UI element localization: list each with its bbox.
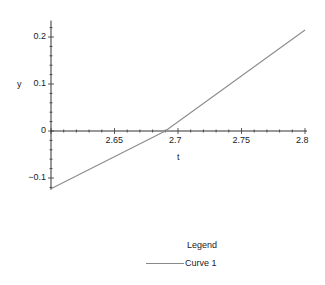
x-tick-label: 2.75	[233, 135, 251, 145]
chart-plot-area	[0, 0, 325, 285]
y-tick-label: −0.1	[28, 172, 46, 182]
x-tick-label: 2.65	[106, 135, 124, 145]
legend-title: Legend	[187, 240, 217, 250]
x-tick-label: 2.8	[296, 135, 309, 145]
curve-1-line	[51, 30, 305, 189]
legend-item-curve-1: Curve 1	[146, 258, 217, 268]
axes	[48, 21, 307, 190]
legend-label: Curve 1	[185, 258, 217, 268]
x-axis-label: t	[177, 152, 180, 162]
x-tick-label: 2.7	[169, 135, 182, 145]
curves	[51, 30, 305, 189]
legend-swatch	[146, 263, 184, 264]
y-axis-label: y	[17, 79, 22, 89]
y-tick-label: 0.2	[33, 31, 46, 41]
y-tick-label: 0	[41, 125, 46, 135]
y-tick-label: 0.1	[33, 78, 46, 88]
